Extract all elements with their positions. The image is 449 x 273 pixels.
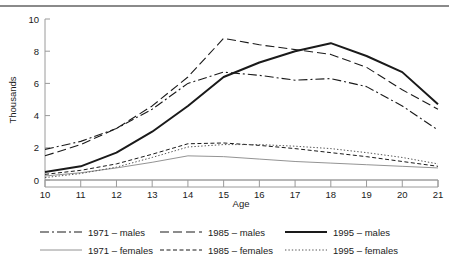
line-chart: 0246810 101112131415161718192021 Thousan… [0,0,449,273]
series-line-1995-females [45,145,438,178]
chart-legend: 1971 – males1971 – females1985 – males19… [40,227,398,256]
legend-label-1971-females: 1971 – females [88,245,153,256]
series-line-1995-males [45,43,438,172]
x-axis-label: Age [233,198,250,209]
x-tick-label: 14 [183,189,194,200]
legend-label-1995-females: 1995 – females [333,245,398,256]
legend-label-1995-males: 1995 – males [333,227,390,238]
chart-figure: 0246810 101112131415161718192021 Thousan… [0,0,449,273]
series-line-1971-males [45,72,438,149]
x-tick-label: 16 [254,189,265,200]
series-line-1985-males [45,38,438,156]
y-tick-label: 0 [34,175,39,186]
legend-label-1985-females: 1985 – females [208,245,273,256]
legend-label-1985-males: 1985 – males [208,227,265,238]
x-tick-label: 18 [326,189,337,200]
y-tick-label: 6 [34,78,39,89]
x-tick-label: 10 [40,189,51,200]
legend-label-1971-males: 1971 – males [88,227,145,238]
y-tick-label: 4 [34,110,39,121]
x-tick-label: 12 [111,189,122,200]
plot-frame [45,19,438,187]
x-tick-label: 15 [218,189,229,200]
y-axis-ticks: 0246810 [28,14,50,186]
x-tick-label: 13 [147,189,158,200]
y-tick-label: 10 [28,14,39,25]
x-tick-label: 21 [433,189,444,200]
x-tick-label: 20 [397,189,408,200]
y-tick-label: 8 [34,46,39,57]
x-tick-label: 17 [290,189,301,200]
x-axis-ticks: 101112131415161718192021 [40,180,444,200]
series-lines [45,38,438,177]
x-tick-label: 19 [361,189,372,200]
x-tick-label: 11 [76,189,86,200]
y-tick-label: 2 [34,142,39,153]
y-axis-label: Thousands [7,76,18,123]
